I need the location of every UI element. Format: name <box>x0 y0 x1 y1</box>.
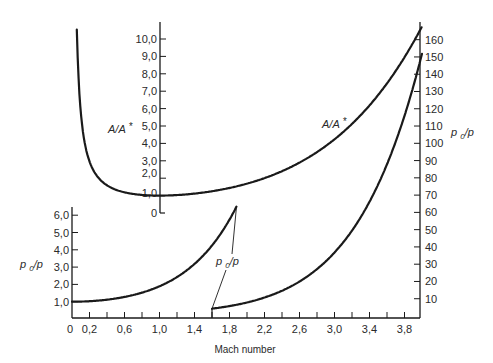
ratio-denominator: /p <box>464 126 474 138</box>
p-low-axis-label: p 0/p <box>19 258 43 273</box>
area-tick-label: 2,0 <box>142 167 157 179</box>
p-high-tick-label: 20 <box>425 275 437 287</box>
area-tick-label: 1,0 <box>142 187 157 199</box>
x-tick-label: 1,4 <box>187 323 202 335</box>
x-tick-label: 3,0 <box>327 323 342 335</box>
p-high-axis-label: p 0/p <box>450 126 474 141</box>
p-low-tick-label: 3,0 <box>54 261 69 273</box>
pressure-ratio-low-curve <box>72 207 237 302</box>
area-curve-label: A/A * <box>321 116 347 130</box>
p-low-tick-label: 1,0 <box>54 296 69 308</box>
area-ratio-axis: 01,02,03,04,05,06,07,08,09,010,0 <box>136 22 166 219</box>
x-tick-label: 2,6 <box>292 323 307 335</box>
x-tick-label: 0,6 <box>117 323 132 335</box>
area-ratio-curve <box>77 27 422 195</box>
p-low-tick-label: 5,0 <box>54 227 69 239</box>
p-high-tick-label: 10 <box>425 293 437 305</box>
p-high-tick-label: 160 <box>425 34 443 46</box>
x-tick-label: 1,0 <box>152 323 167 335</box>
p-high-tick-label: 40 <box>425 241 437 253</box>
p-high-tick-label: 110 <box>425 120 443 132</box>
p-high-tick-label: 90 <box>425 155 437 167</box>
p-high-axis-label-text: p <box>450 126 457 138</box>
area-tick-label: 0 <box>151 207 157 219</box>
pressure-ratio-high-curve <box>212 54 422 309</box>
area-tick-label: 5,0 <box>142 120 157 132</box>
area-tick-label: 8,0 <box>142 68 157 80</box>
isentropic-flow-chart: 00,20,61,01,41,82,22,63,03,43,8 01,02,03… <box>0 0 493 363</box>
p-low-tick-label: 4,0 <box>54 244 69 256</box>
x-axis: 00,20,61,01,41,82,22,63,03,43,8 <box>67 312 420 335</box>
ratio-denominator: /p <box>33 258 43 270</box>
p-high-tick-label: 140 <box>425 68 443 80</box>
p-high-tick-label: 60 <box>425 206 437 218</box>
p-high-tick-label: 100 <box>425 137 443 149</box>
area-tick-label: 9,0 <box>142 50 157 62</box>
area-axis-label-text: A/A <box>107 123 125 135</box>
p-high-tick-label: 130 <box>425 85 443 97</box>
p-low-axis-label-text: p <box>19 258 26 270</box>
p-low-tick-label: 6,0 <box>54 209 69 221</box>
p-high-tick-label: 70 <box>425 189 437 201</box>
p-low-tick-label: 2,0 <box>54 278 69 290</box>
superscript-star: * <box>342 116 347 127</box>
area-tick-label: 4,0 <box>142 137 157 149</box>
x-tick-label: 3,4 <box>362 323 377 335</box>
p-high-tick-label: 120 <box>425 103 443 115</box>
p-high-tick-label: 80 <box>425 172 437 184</box>
x-tick-label: 0 <box>67 323 73 335</box>
x-tick-label: 0,2 <box>82 323 97 335</box>
x-axis-title: Mach number <box>214 344 276 355</box>
p-leader-label: p 0/p <box>215 255 239 270</box>
x-tick-label: 3,8 <box>397 323 412 335</box>
superscript-star: * <box>128 121 133 132</box>
area-tick-label: 3,0 <box>142 155 157 167</box>
ratio-denominator: /p <box>229 255 239 267</box>
p-high-tick-label: 30 <box>425 258 437 270</box>
area-tick-label: 10,0 <box>136 33 157 45</box>
curves <box>72 27 422 308</box>
area-tick-label: 6,0 <box>142 103 157 115</box>
x-tick-label: 2,2 <box>257 323 272 335</box>
area-tick-label: 7,0 <box>142 85 157 97</box>
area-curve-label-text: A/A <box>321 118 339 130</box>
p-leader-label-text: p <box>215 255 222 267</box>
p-high-tick-label: 50 <box>425 224 437 236</box>
leader-line-lower <box>212 270 226 309</box>
area-axis-label: A/A * <box>107 121 133 135</box>
x-tick-label: 1,8 <box>222 323 237 335</box>
p-high-tick-label: 150 <box>425 51 443 63</box>
